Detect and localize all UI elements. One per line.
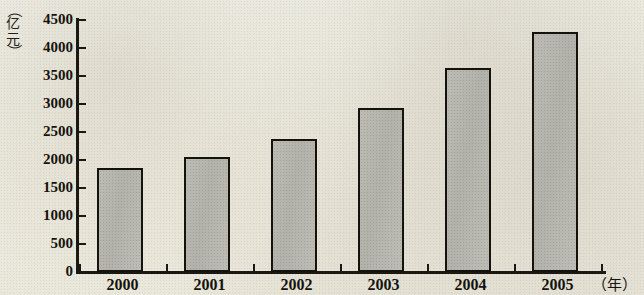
bar-2003 bbox=[358, 108, 404, 272]
y-axis-tick bbox=[79, 75, 86, 77]
y-axis-tick-label: 4000 bbox=[27, 40, 73, 55]
x-axis-tick bbox=[514, 264, 516, 272]
x-axis-title: （年） bbox=[592, 276, 637, 294]
y-axis-tick-label: 2000 bbox=[27, 152, 73, 167]
y-axis-tick bbox=[79, 19, 86, 21]
y-axis-tick-label: 2500 bbox=[27, 124, 73, 139]
bar-2002 bbox=[271, 139, 317, 272]
y-axis-tick-label: 500 bbox=[27, 236, 73, 251]
x-axis-tick bbox=[340, 264, 342, 272]
y-axis-tick bbox=[79, 159, 86, 161]
y-axis-tick bbox=[79, 131, 86, 133]
y-axis-tick-label: 1000 bbox=[27, 208, 73, 223]
y-axis-tick-label: 4500 bbox=[27, 12, 73, 27]
bar-2004 bbox=[445, 68, 491, 272]
x-axis-label-2002: 2002 bbox=[253, 276, 340, 294]
y-axis-unit-label: （ 亿 元 ） bbox=[2, 6, 24, 56]
bar-2000 bbox=[97, 168, 143, 272]
y-axis-tick-label: 0 bbox=[27, 264, 73, 279]
x-axis-tick bbox=[166, 264, 168, 272]
y-axis-tick bbox=[79, 103, 86, 105]
x-axis-tick bbox=[253, 264, 255, 272]
y-axis-tick bbox=[79, 215, 86, 217]
y-axis-tick-label: 3500 bbox=[27, 68, 73, 83]
x-axis-label-2005: 2005 bbox=[514, 276, 601, 294]
x-axis-label-2000: 2000 bbox=[79, 276, 166, 294]
bar-2001 bbox=[184, 157, 230, 272]
y-axis-line bbox=[76, 18, 79, 274]
x-axis-tick bbox=[79, 264, 81, 272]
y-axis-tick bbox=[79, 187, 86, 189]
y-axis-tick bbox=[79, 243, 86, 245]
y-axis-tick bbox=[79, 47, 86, 49]
x-axis-label-2003: 2003 bbox=[340, 276, 427, 294]
y-axis-unit-open-paren: （ bbox=[9, 0, 18, 22]
bar-2005 bbox=[532, 32, 578, 272]
x-axis-label-2001: 2001 bbox=[166, 276, 253, 294]
y-axis-tick-label: 1500 bbox=[27, 180, 73, 195]
x-axis-label-2004: 2004 bbox=[427, 276, 514, 294]
x-axis-tick bbox=[601, 264, 603, 272]
y-axis-unit-close-paren: ） bbox=[9, 41, 18, 63]
bar-chart: （ 亿 元 ） 05001000150020002500300035004000… bbox=[0, 0, 644, 295]
x-axis-tick bbox=[427, 264, 429, 272]
y-axis-tick-label: 3000 bbox=[27, 96, 73, 111]
